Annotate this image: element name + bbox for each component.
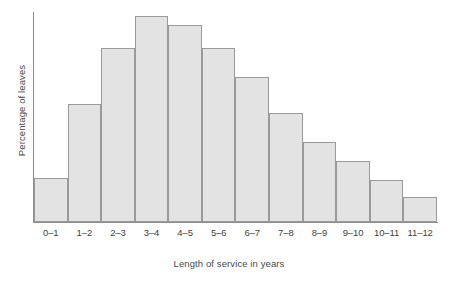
bar-cell: [370, 12, 404, 222]
x-tick-label: 6–7: [235, 227, 269, 238]
x-axis-tick-labels: 0–1 1–2 2–3 3–4 4–5 5–6 6–7 7–8 8–9 9–10…: [34, 227, 437, 238]
bar-cell: [403, 12, 437, 222]
x-tick-label: 5–6: [202, 227, 236, 238]
x-tick-label: 4–5: [168, 227, 202, 238]
bar-cell: [34, 12, 68, 222]
bar[interactable]: [336, 161, 370, 222]
bar[interactable]: [168, 25, 202, 222]
bar-cell: [235, 12, 269, 222]
bar-cell: [101, 12, 135, 222]
bar[interactable]: [403, 197, 437, 222]
histogram-figure: Percentage of leaves 0–1 1–2 2–3 3–4 4–5…: [0, 0, 458, 293]
x-tick-label: 10–11: [370, 227, 404, 238]
bar[interactable]: [370, 180, 404, 222]
x-tick-label: 0–1: [34, 227, 68, 238]
bar-cell: [68, 12, 102, 222]
x-tick-label: 8–9: [303, 227, 337, 238]
y-axis-title: Percentage of leaves: [16, 41, 27, 181]
bar[interactable]: [34, 178, 68, 222]
bar-cell: [303, 12, 337, 222]
x-tick-label: 11–12: [403, 227, 437, 238]
x-axis-line: [33, 222, 438, 223]
bar-cell: [135, 12, 169, 222]
bar[interactable]: [303, 142, 337, 222]
bar[interactable]: [202, 48, 236, 222]
bar-cell: [202, 12, 236, 222]
x-tick-label: 2–3: [101, 227, 135, 238]
bar-cell: [269, 12, 303, 222]
x-tick-label: 1–2: [68, 227, 102, 238]
bar[interactable]: [101, 48, 135, 222]
bar[interactable]: [269, 113, 303, 222]
bar[interactable]: [235, 77, 269, 222]
bar-cell: [336, 12, 370, 222]
x-axis-title: Length of service in years: [0, 258, 458, 269]
bar-cell: [168, 12, 202, 222]
x-tick-label: 7–8: [269, 227, 303, 238]
x-tick-label: 3–4: [135, 227, 169, 238]
x-tick-label: 9–10: [336, 227, 370, 238]
bar[interactable]: [135, 16, 169, 222]
bar[interactable]: [68, 104, 102, 222]
bar-series: [34, 12, 437, 222]
plot-area: [34, 12, 437, 222]
